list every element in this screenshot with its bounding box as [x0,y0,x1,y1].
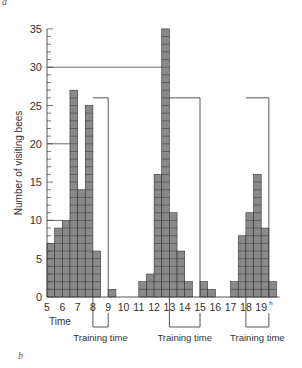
training-label-3: Training time [230,332,285,343]
x-tick-label: 17 [225,301,237,313]
x-tick-label: 11 [133,301,144,313]
x-tick-unit: h [269,300,272,306]
bar [70,90,78,297]
x-tick-label: 9 [105,301,111,313]
x-tick-label: 12 [148,301,160,313]
bar [47,243,55,297]
bar-chart: Training timeTraining timeTraining time0… [0,0,302,368]
bar [146,274,154,297]
x-tick-label: 16 [209,301,221,313]
y-tick-label: 20 [30,138,42,150]
bar [162,29,170,297]
x-axis-label: Time [49,316,71,327]
x-tick-label: 19 [255,301,267,313]
x-tick-label: 6 [59,301,65,313]
bar [55,228,63,297]
y-tick-label: 15 [30,176,42,188]
bar [246,213,254,297]
x-tick-label: 14 [179,301,191,313]
x-tick-label: 13 [164,301,176,313]
y-tick-label: 10 [30,214,42,226]
x-tick-label: 10 [118,301,130,313]
y-axis-label: Number of visiting bees [13,111,24,216]
bar [108,289,116,297]
x-tick-label: 15 [194,301,206,313]
training-label-1: Training time [73,332,128,343]
training-label-2: Training time [157,332,212,343]
bar [208,289,216,297]
bar [169,213,177,297]
y-tick-label: 5 [36,253,42,265]
y-tick-label: 35 [30,23,42,35]
bar [261,228,269,297]
y-tick-label: 30 [30,61,42,73]
x-tick-label: 7 [75,301,81,313]
x-tick-label: 18 [240,301,252,313]
y-tick-label: 25 [30,100,42,112]
y-tick-label: 0 [36,291,42,303]
x-tick-label: 8 [90,301,96,313]
bar [85,106,93,298]
x-tick-label: 5 [44,301,50,313]
